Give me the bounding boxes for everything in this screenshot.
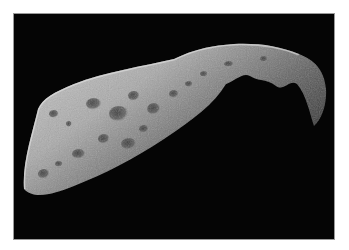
photo-frame	[14, 14, 334, 239]
asteroid-photo	[14, 14, 334, 239]
